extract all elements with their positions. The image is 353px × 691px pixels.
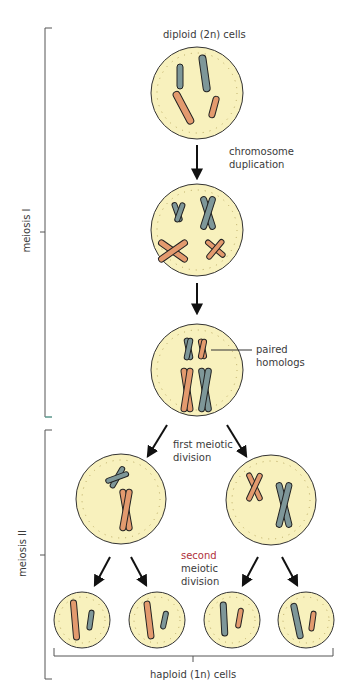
paired-homologs-label-line2: homologs (256, 356, 305, 369)
duplication-label-line1: chromosome (229, 145, 294, 158)
arrow-second-division-4 (282, 557, 297, 585)
meiosis-1-bracket (40, 28, 52, 417)
paired-homologs-label-line1: paired (256, 343, 288, 356)
meiosis-1-label: meiosis I (21, 201, 32, 261)
first-division-label-line2: division (173, 451, 211, 464)
diploid-cell (151, 47, 243, 139)
paired-homologs-cell (151, 324, 252, 416)
haploid-cell-2 (129, 592, 185, 648)
haploid-label: haploid (1n) cells (150, 668, 236, 681)
haploid-cell-1 (54, 592, 110, 648)
haploid-bracket (54, 648, 333, 662)
arrow-second-division-1 (95, 557, 110, 585)
meiosis-2-bracket (40, 430, 52, 679)
meiosis-2-label: meiosis II (17, 524, 28, 584)
arrow-first-division-left (148, 425, 167, 456)
second-division-label-line3: division (181, 575, 219, 588)
first-division-label-line1: first meiotic (173, 438, 233, 451)
haploid-cell-4 (278, 592, 334, 648)
haploid-cell-3 (204, 592, 260, 648)
meiosis-2-cell-right (226, 455, 316, 545)
diploid-label: diploid (2n) cells (163, 28, 246, 41)
arrow-second-division-3 (243, 557, 258, 585)
second-division-label-line1: second (181, 549, 217, 562)
duplication-label-line2: duplication (229, 158, 284, 171)
meiosis-2-cell-left (76, 454, 166, 544)
second-division-label-line2: meiotic (181, 562, 218, 575)
arrow-second-division-2 (131, 557, 146, 585)
meiosis-diagram (0, 0, 353, 691)
duplicated-cell (151, 184, 243, 276)
